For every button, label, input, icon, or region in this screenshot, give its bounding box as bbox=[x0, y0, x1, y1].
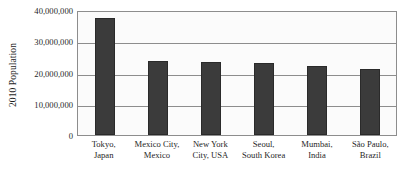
bars-layer bbox=[78, 12, 396, 135]
x-tick-label-line2: Japan bbox=[77, 150, 130, 161]
x-tick-label-line1: Seoul, bbox=[253, 139, 275, 149]
bar-slot bbox=[290, 12, 343, 135]
x-tick-label-line2: Mexico bbox=[130, 150, 183, 161]
bar[interactable] bbox=[95, 18, 115, 135]
bar-slot bbox=[237, 12, 290, 135]
x-tick-label-line1: New York bbox=[193, 139, 228, 149]
x-tick-label: Mexico City,Mexico bbox=[130, 139, 183, 161]
x-tick-label-line1: Tokyo, bbox=[92, 139, 116, 149]
y-tick-label: 0 bbox=[69, 131, 73, 141]
x-tick-label-line2: South Korea bbox=[237, 150, 290, 161]
population-bar-chart: 2010 Population 010,000,00020,000,00030,… bbox=[0, 0, 409, 178]
y-tick-label: 40,000,000 bbox=[34, 6, 73, 16]
bar-slot bbox=[343, 12, 396, 135]
bar[interactable] bbox=[201, 62, 221, 135]
x-tick-label-line2: India bbox=[290, 150, 343, 161]
bar-slot bbox=[184, 12, 237, 135]
bar-slot bbox=[78, 12, 131, 135]
x-tick-label: Seoul,South Korea bbox=[237, 139, 290, 161]
x-tick-label-line2: Brazil bbox=[344, 150, 397, 161]
y-axis-title-label: 2010 Population bbox=[8, 43, 18, 107]
x-axis-tick-labels: Tokyo,JapanMexico City,MexicoNew YorkCit… bbox=[77, 139, 397, 161]
bar-slot bbox=[131, 12, 184, 135]
x-tick-label-line1: Mexico City, bbox=[135, 139, 180, 149]
x-tick-label-line1: São Paulo, bbox=[352, 139, 389, 149]
x-tick-label: Tokyo,Japan bbox=[77, 139, 130, 161]
x-tick-label: São Paulo,Brazil bbox=[344, 139, 397, 161]
x-tick-label-line1: Mumbai, bbox=[301, 139, 332, 149]
bar[interactable] bbox=[307, 66, 327, 135]
x-tick-label: New YorkCity, USA bbox=[184, 139, 237, 161]
bar[interactable] bbox=[148, 61, 168, 135]
y-tick-label: 10,000,000 bbox=[34, 100, 73, 110]
y-tick-label: 20,000,000 bbox=[34, 69, 73, 79]
x-tick-label-line2: City, USA bbox=[184, 150, 237, 161]
bar[interactable] bbox=[254, 63, 274, 135]
x-tick-label: Mumbai,India bbox=[290, 139, 343, 161]
plot-area bbox=[77, 11, 397, 136]
bar[interactable] bbox=[360, 69, 380, 135]
y-tick-label: 30,000,000 bbox=[34, 37, 73, 47]
y-axis-tick-labels: 010,000,00020,000,00030,000,00040,000,00… bbox=[20, 11, 76, 136]
